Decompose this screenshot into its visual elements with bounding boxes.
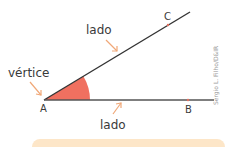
arrow-icon	[106, 40, 117, 51]
info-box	[32, 139, 225, 147]
point-label-b: B	[185, 105, 192, 115]
side-label-top: lado	[86, 24, 112, 36]
image-credit: Sergio L. Filho/D&IR	[212, 46, 219, 105]
vertex-label: vértice	[8, 67, 49, 79]
point-label-a: A	[40, 104, 47, 114]
side-label-bottom: lado	[100, 119, 126, 131]
point-label-c: C	[164, 12, 171, 22]
arrow-icon	[113, 103, 121, 114]
point-c-mark	[167, 24, 169, 26]
point-b-mark	[187, 99, 189, 101]
arrow-icon	[30, 82, 41, 95]
